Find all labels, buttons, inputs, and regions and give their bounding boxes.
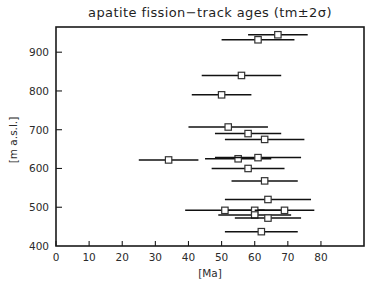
plot-frame bbox=[56, 27, 364, 246]
data-point bbox=[232, 178, 298, 184]
data-point bbox=[218, 212, 291, 218]
data-points-layer bbox=[139, 32, 315, 235]
x-tick-label: 70 bbox=[281, 251, 294, 263]
point-marker bbox=[222, 207, 228, 213]
chart-title: apatite fission−track ages (tm±2σ) bbox=[88, 5, 332, 20]
data-point bbox=[212, 165, 285, 171]
x-axis-ticks: 01020304050607080 bbox=[53, 241, 328, 263]
data-point bbox=[215, 154, 301, 160]
y-tick-label: 800 bbox=[29, 85, 49, 97]
x-tick-label: 60 bbox=[248, 251, 261, 263]
point-marker bbox=[238, 72, 244, 78]
point-marker bbox=[218, 92, 224, 98]
y-tick-label: 700 bbox=[29, 124, 49, 136]
data-point bbox=[202, 72, 281, 78]
point-marker bbox=[245, 165, 251, 171]
y-tick-label: 900 bbox=[29, 46, 49, 58]
x-tick-label: 10 bbox=[82, 251, 95, 263]
y-tick-label: 600 bbox=[29, 162, 49, 174]
data-point bbox=[225, 228, 298, 234]
point-marker bbox=[165, 157, 171, 163]
data-point bbox=[225, 196, 311, 202]
y-tick-label: 400 bbox=[29, 240, 49, 252]
point-marker bbox=[258, 228, 264, 234]
point-marker bbox=[225, 124, 231, 130]
y-tick-label: 500 bbox=[29, 201, 49, 213]
point-marker bbox=[261, 178, 267, 184]
point-marker bbox=[265, 196, 271, 202]
point-marker bbox=[255, 154, 261, 160]
data-point bbox=[188, 124, 267, 130]
x-axis-title: [Ma] bbox=[198, 267, 222, 279]
x-tick-label: 30 bbox=[149, 251, 162, 263]
x-tick-label: 50 bbox=[215, 251, 228, 263]
x-tick-label: 0 bbox=[53, 251, 60, 263]
data-point bbox=[139, 157, 199, 163]
scatter-plot: apatite fission−track ages (tm±2σ) [Ma] … bbox=[0, 0, 380, 288]
point-marker bbox=[275, 32, 281, 38]
x-tick-label: 80 bbox=[314, 251, 327, 263]
data-point bbox=[255, 207, 315, 213]
point-marker bbox=[265, 215, 271, 221]
data-point bbox=[235, 215, 301, 221]
point-marker bbox=[235, 156, 241, 162]
x-tick-label: 40 bbox=[182, 251, 195, 263]
point-marker bbox=[245, 130, 251, 136]
point-marker bbox=[281, 207, 287, 213]
point-marker bbox=[261, 136, 267, 142]
figure-container: apatite fission−track ages (tm±2σ) [Ma] … bbox=[0, 0, 380, 288]
y-axis-title: [m a.s.l.] bbox=[7, 117, 19, 164]
data-point bbox=[215, 130, 281, 136]
data-point bbox=[192, 92, 252, 98]
data-point bbox=[222, 37, 295, 43]
point-marker bbox=[252, 212, 258, 218]
data-point bbox=[225, 136, 304, 142]
x-tick-label: 20 bbox=[116, 251, 129, 263]
y-axis-ticks: 400500600700800900 bbox=[29, 46, 62, 252]
point-marker bbox=[255, 37, 261, 43]
